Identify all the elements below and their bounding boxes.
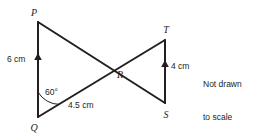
note-line-1: Not drawn — [203, 79, 242, 90]
measure-label-pq: 6 cm — [7, 54, 25, 64]
note-line-2: to scale — [203, 112, 242, 123]
angle-label-q: 60° — [45, 87, 58, 97]
vertex-label-Q: Q — [30, 122, 38, 133]
geometry-figure: P Q R S T 6 cm 4 cm 4.5 cm 60° Not drawn… — [0, 0, 266, 138]
vertex-label-P: P — [30, 7, 37, 18]
not-to-scale-note: Not drawn to scale — [203, 57, 242, 138]
arrow-marker-icon-ts — [161, 60, 169, 67]
arrow-marker-icon-pq — [34, 53, 42, 60]
segment-QT — [38, 40, 165, 117]
vertex-label-S: S — [164, 109, 169, 120]
vertex-label-T: T — [163, 24, 170, 35]
vertex-label-R: R — [116, 69, 123, 80]
measure-label-qr: 4.5 cm — [68, 100, 94, 110]
measure-label-ts: 4 cm — [171, 61, 189, 71]
